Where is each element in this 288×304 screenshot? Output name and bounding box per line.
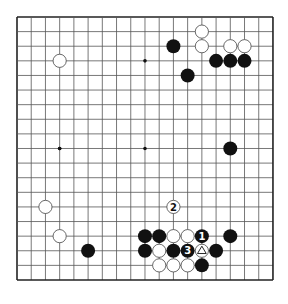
black-stone: 1	[195, 229, 209, 243]
move-number-label: 2	[170, 202, 177, 213]
white-stone	[153, 244, 166, 257]
black-stone	[181, 68, 195, 82]
black-stone	[152, 229, 166, 243]
white-stone	[195, 25, 208, 38]
white-stone	[238, 40, 251, 53]
white-stone	[167, 259, 180, 272]
white-stone	[195, 244, 208, 257]
black-stone	[166, 39, 180, 53]
black-stone	[238, 54, 252, 68]
black-stone	[209, 54, 223, 68]
black-stone	[138, 244, 152, 258]
white-stone	[39, 200, 52, 213]
black-stone	[138, 229, 152, 243]
black-stone	[81, 244, 95, 258]
white-stone	[224, 40, 237, 53]
star-point	[58, 147, 62, 151]
white-stone	[195, 40, 208, 53]
black-stone: 3	[181, 244, 195, 258]
black-stone	[195, 258, 209, 272]
white-stone	[53, 230, 66, 243]
white-stone	[167, 230, 180, 243]
move-number-label: 1	[198, 231, 205, 242]
black-stone	[223, 54, 237, 68]
go-board[interactable]: 213	[0, 0, 288, 304]
black-stone	[223, 229, 237, 243]
white-stone	[53, 54, 66, 67]
star-point	[143, 59, 147, 63]
star-point	[143, 147, 147, 151]
black-stone	[223, 141, 237, 155]
black-stone	[166, 244, 180, 258]
white-stone	[153, 259, 166, 272]
white-stone: 2	[167, 200, 180, 213]
move-number-label: 3	[184, 245, 191, 256]
black-stone	[209, 244, 223, 258]
white-stone	[181, 230, 194, 243]
white-stone	[181, 259, 194, 272]
